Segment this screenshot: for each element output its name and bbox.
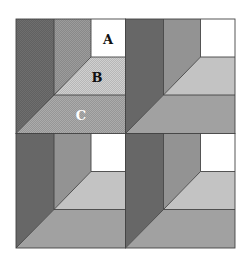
label-b: B bbox=[92, 70, 103, 85]
quilt-diagram: A B C bbox=[0, 0, 250, 261]
tile-bottom-left bbox=[16, 134, 126, 249]
tile-top-right bbox=[126, 19, 236, 134]
tile-bottom-right bbox=[126, 134, 236, 249]
label-a: A bbox=[102, 32, 114, 47]
label-c: C bbox=[76, 108, 86, 123]
